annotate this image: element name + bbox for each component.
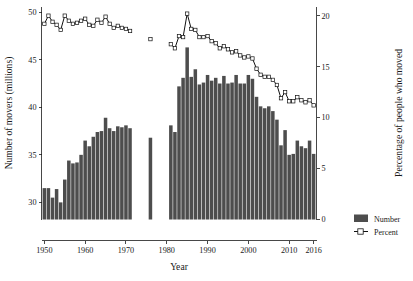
percent-marker [128, 29, 131, 32]
bar [243, 84, 247, 220]
percent-marker [55, 23, 58, 26]
percent-marker [304, 101, 307, 104]
percent-marker [51, 20, 54, 23]
percent-marker [214, 41, 217, 44]
bar [75, 162, 79, 219]
y2-tick-label: 0 [322, 215, 326, 224]
bar [124, 125, 128, 219]
legend-label-percent: Percent [374, 228, 399, 237]
bar [251, 79, 255, 220]
bar [181, 78, 185, 220]
bar [116, 126, 120, 219]
percent-marker [71, 22, 74, 25]
y-tick-label: 35 [28, 151, 36, 160]
x-tick-label: 1980 [159, 246, 175, 255]
bar [43, 188, 47, 219]
percent-marker [75, 21, 78, 24]
percent-marker [287, 100, 290, 103]
percent-marker [259, 73, 262, 76]
bar [149, 138, 153, 220]
chart-figure: 3035404550 05101520 19501960197019801990… [0, 0, 413, 281]
percent-marker [173, 47, 176, 50]
bar [247, 75, 251, 220]
percent-marker [108, 22, 111, 25]
percent-marker [67, 19, 70, 22]
bar [71, 163, 75, 219]
percent-marker [43, 22, 46, 25]
percent-marker [283, 90, 286, 93]
legend-swatch-number [354, 215, 368, 223]
y2-tick-label: 5 [322, 164, 326, 173]
bar [279, 145, 283, 219]
bar [214, 78, 218, 220]
percent-marker [230, 51, 233, 54]
bar [47, 188, 51, 219]
bar [67, 161, 71, 220]
percent-marker [96, 18, 99, 21]
bar [267, 106, 271, 219]
bar [230, 83, 234, 220]
percent-marker [292, 100, 295, 103]
y2-axis-title: Percentage of people who moved [393, 49, 404, 177]
percent-marker [312, 104, 315, 107]
bar [304, 148, 308, 219]
legend-label-number: Number [374, 215, 401, 224]
percent-marker [120, 26, 123, 29]
bar [120, 127, 124, 219]
percent-marker [79, 19, 82, 22]
y-axis-title: Number of movers (millions) [3, 57, 15, 170]
x-tick-label: 2010 [281, 246, 297, 255]
bar [108, 128, 112, 219]
y-tick-label: 50 [28, 8, 36, 17]
percent-marker [218, 47, 221, 50]
percent-marker [275, 83, 278, 86]
bar [185, 47, 189, 219]
percent-marker [149, 37, 152, 40]
bar [100, 131, 104, 219]
percent-marker [185, 12, 188, 15]
y-tick-label: 30 [28, 198, 36, 207]
percent-marker [263, 75, 266, 78]
percent-marker [194, 28, 197, 31]
legend-marker-percent [358, 229, 363, 234]
bar [255, 97, 259, 220]
y-tick-label: 40 [28, 103, 36, 112]
x-tick-label: 1950 [36, 246, 52, 255]
percent-marker [169, 43, 172, 46]
x-tick-label: 2016 [305, 246, 321, 255]
percent-marker [300, 99, 303, 102]
y2-tick-label: 10 [322, 113, 330, 122]
bar [234, 75, 238, 220]
percent-marker [92, 24, 95, 27]
percent-marker [308, 99, 311, 102]
percent-marker [116, 24, 119, 27]
bar [59, 202, 63, 219]
percent-marker [59, 28, 62, 31]
percent-marker [267, 75, 270, 78]
bar [194, 69, 198, 219]
percent-marker [271, 78, 274, 81]
bar [87, 146, 91, 219]
x-tick-label: 1990 [199, 246, 215, 255]
percent-marker [226, 48, 229, 51]
bar [275, 120, 279, 220]
percent-marker [177, 34, 180, 37]
bar [271, 111, 275, 219]
bar [96, 132, 100, 219]
y2-tick-label: 20 [322, 12, 330, 21]
bar [169, 125, 173, 219]
x-tick-label: 2000 [240, 246, 256, 255]
bar [238, 84, 242, 220]
bar [104, 118, 108, 220]
percent-marker [190, 27, 193, 30]
bar [210, 81, 214, 220]
bar [291, 154, 295, 220]
bar [300, 146, 304, 219]
migration-chart-svg: 3035404550 05101520 19501960197019801990… [0, 0, 413, 281]
bar [259, 106, 263, 219]
percent-marker [296, 96, 299, 99]
percent-marker [210, 39, 213, 42]
bar [206, 75, 210, 220]
bar [226, 84, 230, 220]
percent-marker [124, 27, 127, 30]
